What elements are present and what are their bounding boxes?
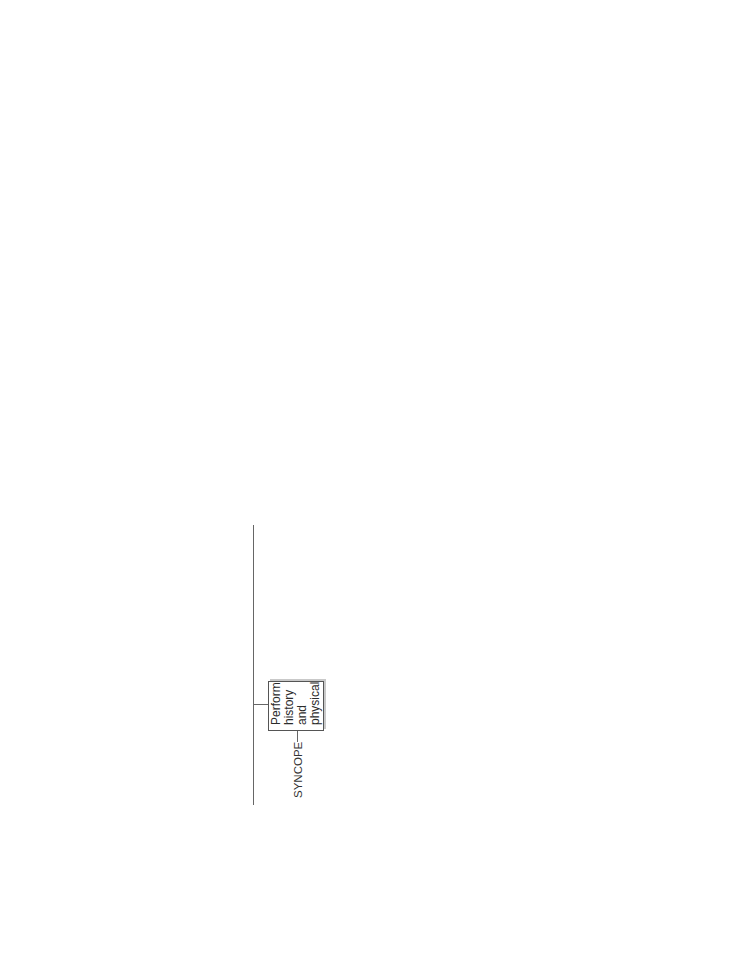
syncope-label: SYNCOPE (292, 742, 304, 798)
flowchart-screen: SYNCOPE Perform history and physical (0, 0, 752, 955)
history-physical-node: Perform history and physical (268, 681, 324, 731)
